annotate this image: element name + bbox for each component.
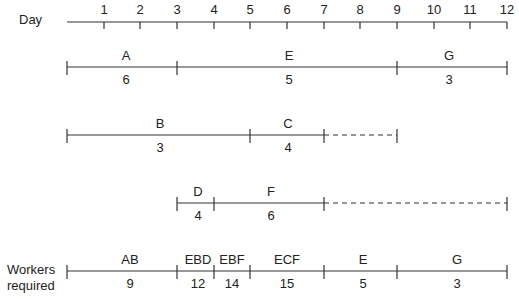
tick-label: 12 [500, 3, 514, 17]
activity-label: A [122, 49, 131, 63]
tick-label: 11 [463, 3, 477, 17]
workers-count: 15 [280, 277, 294, 291]
activity-value: 4 [284, 141, 291, 155]
activity-label: D [193, 185, 202, 199]
activity-label: G [444, 49, 454, 63]
activity-label: C [283, 117, 292, 131]
activity-label: B [156, 117, 165, 131]
workers-activity: ECF [274, 253, 300, 267]
activity-value: 3 [156, 141, 163, 155]
tick-label: 6 [283, 3, 290, 17]
activity-value: 6 [267, 209, 274, 223]
workers-count: 14 [225, 277, 239, 291]
workers-count: 12 [191, 277, 205, 291]
activity-value: 6 [122, 73, 129, 87]
workers-count: 3 [453, 277, 460, 291]
tick-label: 1 [100, 3, 107, 17]
activity-value: 5 [285, 73, 292, 87]
activity-label: F [267, 185, 275, 199]
workers-activity: AB [121, 253, 138, 267]
workers-activity: EBF [219, 253, 244, 267]
activity-value: 3 [445, 73, 452, 87]
axis-label-day: Day [19, 12, 42, 28]
workers-count: 5 [359, 277, 366, 291]
tick-label: 10 [427, 3, 441, 17]
activity-value: 4 [194, 209, 201, 223]
workers-activity: G [452, 253, 462, 267]
tick-label: 8 [356, 3, 363, 17]
workers-label-line2: required [7, 278, 55, 294]
tick-label: 7 [320, 3, 327, 17]
workers-activity: E [359, 253, 368, 267]
tick-label: 2 [136, 3, 143, 17]
tick-label: 4 [210, 3, 217, 17]
workers-activity: EBD [185, 253, 212, 267]
workers-count: 9 [126, 277, 133, 291]
tick-label: 5 [246, 3, 253, 17]
tick-label: 9 [393, 3, 400, 17]
tick-label: 3 [173, 3, 180, 17]
activity-label: E [285, 49, 294, 63]
chart-lines [0, 0, 519, 299]
workers-label-line1: Workers [7, 262, 55, 278]
